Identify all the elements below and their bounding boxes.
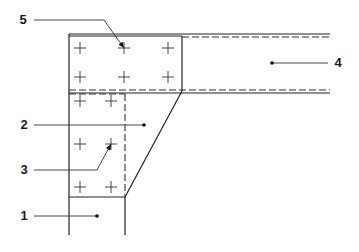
callout-1: 1 <box>20 208 98 223</box>
bolt-icon <box>74 42 86 54</box>
callout-2: 2 <box>20 117 145 132</box>
callout-label: 2 <box>20 117 27 132</box>
callout-label: 3 <box>20 162 27 177</box>
leader-line <box>34 144 111 170</box>
bolt-icon <box>162 71 174 83</box>
bolt-icon <box>74 95 86 107</box>
bolt-icon <box>74 71 86 83</box>
bolt-icon <box>162 42 174 54</box>
callout-label: 1 <box>20 208 27 223</box>
bolt-icon <box>118 71 130 83</box>
callout-3: 3 <box>20 144 111 177</box>
leader-dot <box>95 214 99 218</box>
callout-5: 5 <box>19 12 124 48</box>
column <box>69 34 125 235</box>
beam <box>69 34 330 94</box>
gusset-plate <box>69 36 182 197</box>
bolt-icon <box>105 181 117 193</box>
bolt-icon <box>74 138 86 150</box>
callout-label: 4 <box>334 55 342 70</box>
callout-4: 4 <box>270 55 342 70</box>
arrowhead-icon <box>118 42 124 48</box>
callout-label: 5 <box>19 12 26 27</box>
connection-diagram: 12345 <box>0 0 359 252</box>
bolt-icon <box>74 181 86 193</box>
leader-dot <box>270 61 274 65</box>
callouts: 12345 <box>19 12 342 223</box>
bolt-icon <box>105 95 117 107</box>
leader-dot <box>142 123 146 127</box>
